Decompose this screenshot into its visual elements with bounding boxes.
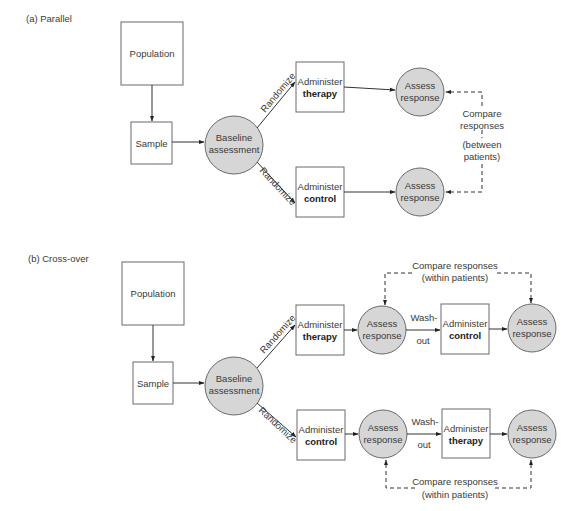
compare-dashed-connector-top [446,92,482,106]
administer-label: Administer [298,319,343,330]
svg-text:(between: (between [462,139,501,150]
response-label: response [363,434,402,445]
assess-response-circle-2: Assess response [508,410,556,458]
randomize-label-top: Randomize [257,312,297,355]
randomize-label-top: Randomize [258,70,297,114]
compare-dashed-connector-bottom [446,164,482,192]
baseline-assessment-circle: Baseline assessment [205,357,263,415]
assess-response-circle-1: Assess response [359,410,407,458]
assess-label: Assess [517,316,548,327]
population-label: Population [130,48,175,59]
control-label: control [304,193,336,204]
therapy-label: therapy [303,88,338,99]
sample-box: Sample [133,362,173,404]
assess-response-circle-control: Assess response [396,168,444,216]
randomize-label-bottom: Randomize [257,404,300,445]
crossover-top-row: Administer therapy Assess response Wash-… [296,260,556,355]
svg-text:patients): patients) [464,151,500,162]
assess-label: Assess [405,180,436,191]
baseline-label-line2: assessment [209,144,260,155]
compare-dashed-connector-left [385,273,412,305]
panel-title-crossover: (b) Cross-over [28,253,89,264]
administer-label: Administer [299,424,344,435]
population-box: Population [122,262,184,325]
administer-label: Administer [298,76,343,87]
sample-label: Sample [137,378,169,389]
diagram-svg: (a) Parallel Population Sample Baseline … [0,0,570,511]
washout-label-line2: out [416,335,430,346]
panel-title-parallel: (a) Parallel [26,13,72,24]
svg-text:Compare responses: Compare responses [412,260,498,271]
assess-response-circle-2: Assess response [508,304,556,352]
administer-therapy-box: Administer therapy [296,305,344,355]
sample-label: Sample [135,138,167,149]
compare-dashed-connector-left [386,460,415,488]
administer-label: Administer [444,423,489,434]
baseline-label-line1: Baseline [216,132,252,143]
administer-label: Administer [298,181,343,192]
svg-text:(within patients): (within patients) [422,272,489,283]
response-label: response [512,434,551,445]
panel-parallel: (a) Parallel Population Sample Baseline … [26,13,504,217]
compare-dashed-connector-right [497,273,531,303]
svg-text:Compare: Compare [462,108,501,119]
administer-control-box: Administer control [297,410,345,460]
population-label: Population [131,288,176,299]
panel-crossover: (b) Cross-over Population Sample Baselin… [28,253,556,500]
control-label: control [305,436,337,447]
assess-response-circle-1: Assess response [358,306,406,354]
baseline-label-line2: assessment [209,385,260,396]
therapy-label: therapy [303,331,338,342]
assess-label: Assess [368,422,399,433]
crossover-bottom-row: Administer control Assess response Wash-… [297,409,556,500]
control-label: control [449,330,481,341]
administer-therapy-box: Administer therapy [296,62,344,112]
therapy-label: therapy [449,435,484,446]
washout-label-line1: Wash- [411,416,438,427]
compare-dashed-connector-right [495,460,531,488]
administer-therapy-box: Administer therapy [442,409,490,458]
baseline-assessment-circle: Baseline assessment [205,116,263,174]
baseline-label-line1: Baseline [216,373,252,384]
trial-design-diagram: (a) Parallel Population Sample Baseline … [0,0,570,511]
assess-response-circle-therapy: Assess response [396,68,444,116]
response-label: response [512,328,551,339]
sample-box: Sample [131,122,172,164]
randomize-label-bottom: Randomize [258,165,299,208]
svg-text:responses: responses [460,120,504,131]
assess-label: Assess [517,422,548,433]
administer-control-box: Administer control [296,167,344,217]
population-box: Population [121,22,183,85]
response-label: response [400,92,439,103]
washout-label-line1: Wash- [410,312,437,323]
administer-label: Administer [443,318,488,329]
response-label: response [362,330,401,341]
assess-label: Assess [367,318,398,329]
assess-label: Assess [405,80,436,91]
svg-text:Compare responses: Compare responses [412,476,498,487]
compare-within-label-top: Compare responses (within patients) [412,260,498,283]
compare-between-label: Compare responses (between patients) [460,108,504,162]
arrow-therapy-to-assess [344,87,395,90]
response-label: response [400,192,439,203]
svg-text:(within patients): (within patients) [422,489,489,500]
washout-label-line2: out [417,439,431,450]
compare-within-label-bottom: Compare responses (within patients) [412,476,498,500]
administer-control-box: Administer control [441,304,489,354]
